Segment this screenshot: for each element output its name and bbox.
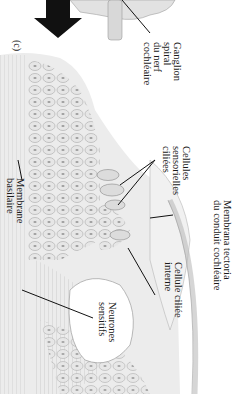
label-neurones-sensitifs: Neurones sensitifs — [97, 302, 117, 342]
label-cellules-sensorielles: Cellules sensorielles ciliées — [161, 146, 191, 195]
label-line: basilaire — [5, 178, 15, 223]
label-line: Membrane — [15, 178, 25, 223]
label-line: Cellule ciliée — [173, 262, 183, 318]
label-line: interne — [163, 262, 173, 318]
label-line: sensorielles — [171, 146, 181, 195]
label-membrana-tectoria: Membrana tectoria du conduit cochléaire — [212, 200, 232, 290]
organ-of-corti-diagram: (c) Ganglion spiral du nerf cochléaire C… — [0, 0, 233, 394]
label-line: sensitifs — [97, 302, 107, 342]
ganglion-tissue — [70, 0, 175, 40]
label-line: Membrana tectoria — [222, 200, 232, 290]
label-line: spiral — [162, 42, 172, 85]
label-line: du conduit cochléaire — [212, 200, 222, 290]
label-line: Neurones — [107, 302, 117, 342]
label-line: cochléaire — [142, 42, 152, 85]
label-ganglion-spiral: Ganglion spiral du nerf cochléaire — [142, 42, 182, 85]
label-line: du nerf — [152, 42, 162, 85]
label-line: Cellules — [181, 146, 191, 195]
panel-label: (c) — [12, 40, 23, 51]
label-line: Ganglion — [172, 42, 182, 85]
label-cellule-ciliee-interne: Cellule ciliée interne — [163, 262, 183, 318]
label-line: ciliées — [161, 146, 171, 195]
label-membrane-basilaire: Membrane basilaire — [5, 178, 25, 223]
